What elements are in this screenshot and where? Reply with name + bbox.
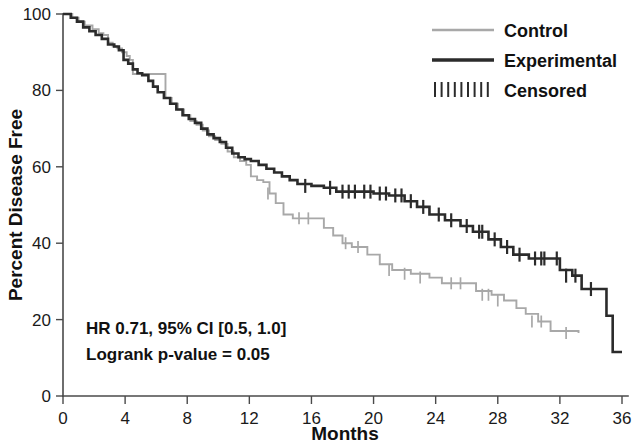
legend-item-censored[interactable]: Censored: [435, 81, 587, 101]
x-tick-label: 8: [182, 409, 191, 428]
legend-label: Censored: [504, 81, 587, 101]
legend-item-control[interactable]: Control: [432, 21, 568, 41]
y-tick-label: 100: [23, 5, 51, 24]
plot-axes: [63, 14, 628, 396]
hazard-ratio-text: HR 0.71, 95% CI [0.5, 1.0]: [86, 319, 286, 338]
x-tick-label: 28: [488, 409, 507, 428]
y-axis-ticks: 020406080100: [23, 5, 63, 406]
y-tick-label: 0: [42, 387, 51, 406]
y-tick-label: 60: [32, 158, 51, 177]
legend-label: Control: [504, 21, 568, 41]
legend-item-experimental[interactable]: Experimental: [432, 51, 617, 71]
x-tick-label: 0: [58, 409, 67, 428]
x-tick-label: 24: [426, 409, 445, 428]
survival-chart-canvas: 020406080100 04812162024283236 Percent D…: [0, 0, 632, 443]
x-tick-label: 36: [613, 409, 632, 428]
y-tick-label: 40: [32, 234, 51, 253]
legend-label: Experimental: [504, 51, 617, 71]
x-axis-title: Months: [311, 423, 379, 443]
y-tick-label: 80: [32, 81, 51, 100]
x-tick-label: 32: [550, 409, 569, 428]
curve-control: [63, 14, 579, 333]
x-tick-label: 12: [240, 409, 259, 428]
x-tick-label: 4: [120, 409, 129, 428]
y-axis-title: Percent Disease Free: [5, 109, 26, 301]
chart-legend: ControlExperimentalCensored: [432, 21, 617, 101]
y-tick-label: 20: [32, 311, 51, 330]
logrank-pvalue-text: Logrank p-value = 0.05: [86, 345, 270, 364]
stats-annotation: HR 0.71, 95% CI [0.5, 1.0] Logrank p-val…: [86, 319, 286, 364]
kaplan-meier-figure: 020406080100 04812162024283236 Percent D…: [0, 0, 632, 443]
